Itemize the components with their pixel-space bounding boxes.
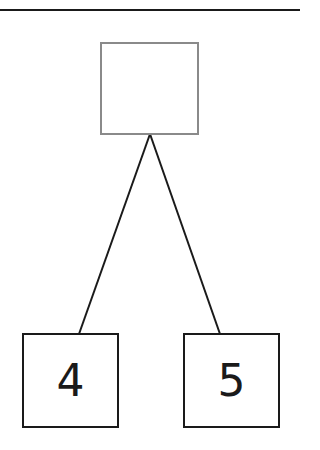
connector-right — [150, 134, 220, 334]
whole-box[interactable] — [100, 42, 199, 135]
part-box-left[interactable]: 4 — [22, 333, 119, 428]
connector-left — [79, 134, 150, 334]
part-box-right[interactable]: 5 — [183, 333, 280, 428]
part-value-left: 4 — [57, 359, 85, 403]
part-value-right: 5 — [218, 359, 246, 403]
